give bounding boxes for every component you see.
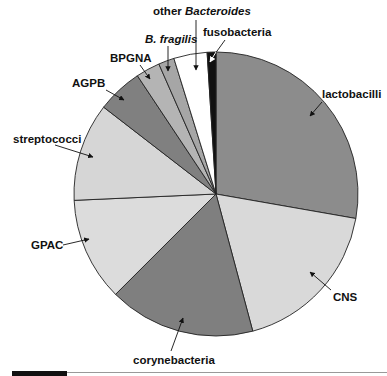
footer-rule xyxy=(67,372,387,373)
label-fusobacteria: fusobacteria xyxy=(203,26,272,38)
label-other-italic: Bacteroides xyxy=(185,5,251,17)
pie-chart: lactobacilli CNS corynebacteria GPAC str… xyxy=(0,0,387,376)
pie-slice-lactobacilli xyxy=(216,52,358,218)
label-other-prefix: other xyxy=(153,5,185,17)
callout-gpac: GPAC xyxy=(31,239,89,251)
label-bfragilis: B. fragilis xyxy=(145,33,197,45)
label-other-bacteroides: other Bacteroides xyxy=(153,5,251,17)
footer-black-bar xyxy=(12,371,67,376)
label-gpac: GPAC xyxy=(31,239,63,251)
label-lactobacilli: lactobacilli xyxy=(322,88,381,100)
label-agpb: AGPB xyxy=(72,77,105,89)
label-corynebacteria: corynebacteria xyxy=(133,354,215,366)
callout-streptococci: streptococci xyxy=(13,133,93,157)
label-bpgna: BPGNA xyxy=(110,52,152,64)
label-streptococci: streptococci xyxy=(13,133,81,145)
pie-slices xyxy=(74,52,358,336)
label-cns: CNS xyxy=(333,291,358,303)
